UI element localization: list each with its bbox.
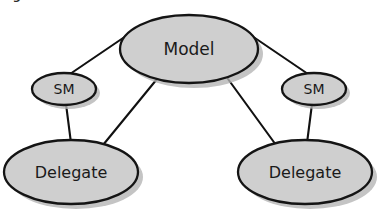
node-delegate-right[interactable]: Delegate (238, 140, 377, 209)
model-label: Model (163, 39, 214, 59)
sm-right-label: SM (304, 81, 325, 97)
sm-left-label: SM (54, 81, 75, 97)
model-delegate-diagram: Delegate Delegate SM SM Model (0, 0, 378, 214)
node-model[interactable]: Model (120, 15, 263, 88)
figure-canvas: Figure 10-4. Model Delegate Delegate SM (0, 0, 378, 214)
edge-model-delegate-right (228, 79, 276, 145)
node-sm-right[interactable]: SM (282, 73, 350, 109)
delegate-left-label: Delegate (35, 163, 108, 182)
node-sm-left[interactable]: SM (32, 73, 100, 109)
delegate-right-label: Delegate (269, 163, 342, 182)
edge-model-sm-left (70, 36, 126, 74)
edge-sm-right-delegate-right (307, 104, 312, 143)
edge-sm-left-delegate-left (66, 104, 71, 143)
node-delegate-left[interactable]: Delegate (4, 140, 143, 209)
edge-model-delegate-left (103, 79, 157, 145)
